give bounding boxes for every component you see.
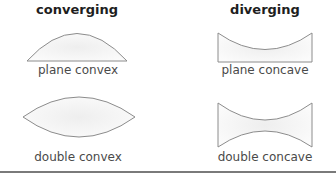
bottom-rule: [0, 171, 336, 173]
lens-diagram: [0, 0, 336, 174]
double-convex-label: double convex: [3, 150, 153, 164]
double-convex-lens: [23, 97, 135, 137]
plane-convex-lens: [27, 34, 127, 62]
plane-concave-lens: [218, 33, 312, 62]
double-concave-label: double concave: [190, 150, 336, 164]
plane-concave-label: plane concave: [190, 63, 336, 77]
plane-convex-label: plane convex: [3, 63, 153, 77]
double-concave-lens: [218, 103, 312, 147]
